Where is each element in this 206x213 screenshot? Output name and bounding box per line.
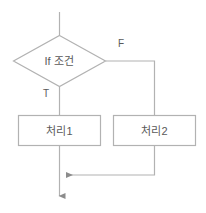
flowchart-canvas: If 조건 처리1 처리2 F T	[0, 0, 206, 213]
decision-label: If 조건	[44, 56, 73, 67]
process-2-label: 처리2	[141, 125, 167, 136]
merge-connector	[67, 146, 155, 176]
false-branch-connector	[106, 61, 155, 115]
flowchart-graphics	[0, 0, 206, 213]
process-1-label: 처리1	[46, 125, 72, 136]
false-branch-label: F	[118, 39, 124, 49]
true-branch-label: T	[43, 89, 49, 99]
